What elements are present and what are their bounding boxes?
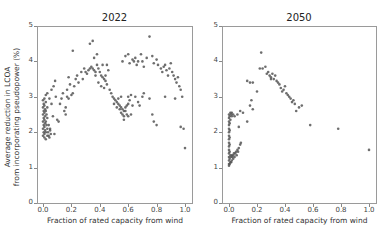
data-point bbox=[113, 103, 116, 106]
data-point bbox=[175, 81, 178, 84]
data-point bbox=[50, 88, 53, 91]
data-point bbox=[106, 64, 109, 67]
data-point bbox=[246, 120, 249, 123]
data-point bbox=[97, 67, 100, 70]
data-point bbox=[53, 133, 56, 136]
data-point bbox=[181, 96, 184, 99]
data-point bbox=[63, 110, 66, 113]
data-point bbox=[80, 71, 83, 74]
data-point bbox=[271, 73, 274, 76]
data-point bbox=[274, 74, 277, 77]
data-point bbox=[55, 96, 58, 99]
data-point bbox=[278, 83, 281, 86]
data-point bbox=[133, 60, 136, 63]
data-point bbox=[73, 85, 76, 88]
data-point bbox=[46, 92, 49, 95]
data-point bbox=[103, 87, 106, 90]
data-point bbox=[45, 113, 48, 116]
data-point bbox=[165, 69, 168, 72]
data-point bbox=[264, 65, 267, 68]
data-point bbox=[89, 42, 92, 45]
data-point bbox=[337, 127, 340, 130]
data-point bbox=[64, 106, 67, 109]
data-point bbox=[48, 136, 51, 139]
data-point bbox=[46, 127, 49, 130]
data-point bbox=[151, 55, 154, 58]
data-point bbox=[127, 103, 130, 106]
data-point bbox=[60, 97, 63, 100]
data-point bbox=[131, 104, 134, 107]
data-point bbox=[57, 120, 60, 123]
data-point bbox=[228, 143, 231, 146]
data-point bbox=[64, 113, 67, 116]
data-point bbox=[155, 124, 158, 127]
data-point bbox=[123, 115, 126, 118]
data-point bbox=[93, 57, 96, 60]
data-point bbox=[62, 92, 65, 95]
data-point bbox=[151, 113, 154, 116]
data-point bbox=[72, 50, 75, 53]
data-point bbox=[110, 92, 113, 95]
data-point bbox=[246, 80, 249, 83]
data-point bbox=[128, 99, 131, 102]
data-point bbox=[168, 67, 171, 70]
data-point bbox=[45, 101, 48, 104]
data-point bbox=[46, 117, 49, 120]
data-point bbox=[107, 69, 110, 72]
data-point bbox=[170, 62, 173, 65]
data-point bbox=[121, 60, 124, 63]
data-point bbox=[160, 67, 163, 70]
data-point bbox=[96, 64, 99, 67]
data-point bbox=[153, 120, 156, 123]
data-point bbox=[235, 154, 238, 157]
data-point bbox=[49, 129, 52, 132]
data-point bbox=[127, 115, 130, 118]
data-point bbox=[52, 85, 55, 88]
data-point bbox=[106, 83, 109, 86]
data-point bbox=[141, 96, 144, 99]
data-point bbox=[178, 85, 181, 88]
data-point bbox=[161, 71, 164, 74]
data-point bbox=[108, 88, 111, 91]
data-point bbox=[182, 127, 185, 130]
data-point bbox=[94, 71, 97, 74]
data-point bbox=[157, 64, 160, 67]
data-point bbox=[179, 126, 182, 129]
data-point bbox=[259, 67, 262, 70]
data-point bbox=[83, 67, 86, 70]
data-point bbox=[256, 90, 259, 93]
data-point bbox=[124, 110, 127, 113]
data-point bbox=[74, 78, 77, 81]
data-point bbox=[301, 104, 304, 107]
data-point bbox=[67, 97, 70, 100]
data-point bbox=[292, 99, 295, 102]
data-point bbox=[67, 76, 70, 79]
data-point bbox=[282, 88, 285, 91]
data-point bbox=[48, 97, 51, 100]
data-point bbox=[284, 85, 287, 88]
data-point bbox=[295, 110, 298, 113]
data-point bbox=[141, 60, 144, 63]
data-point bbox=[117, 97, 120, 100]
scatter-points bbox=[0, 0, 391, 233]
data-point bbox=[143, 65, 146, 68]
data-point bbox=[69, 83, 72, 86]
data-point bbox=[252, 81, 255, 84]
data-point bbox=[43, 126, 46, 129]
data-point bbox=[91, 40, 94, 43]
data-point bbox=[298, 106, 301, 109]
data-point bbox=[82, 78, 85, 81]
data-point bbox=[100, 85, 103, 88]
data-point bbox=[148, 97, 151, 100]
data-point bbox=[43, 97, 46, 100]
data-point bbox=[101, 64, 104, 67]
data-point bbox=[137, 101, 140, 104]
data-point bbox=[128, 62, 131, 65]
data-point bbox=[261, 67, 264, 70]
data-point bbox=[143, 92, 146, 95]
data-point bbox=[249, 104, 252, 107]
data-point bbox=[124, 55, 127, 58]
data-point bbox=[294, 103, 297, 106]
data-point bbox=[47, 124, 50, 127]
data-point bbox=[252, 108, 255, 111]
